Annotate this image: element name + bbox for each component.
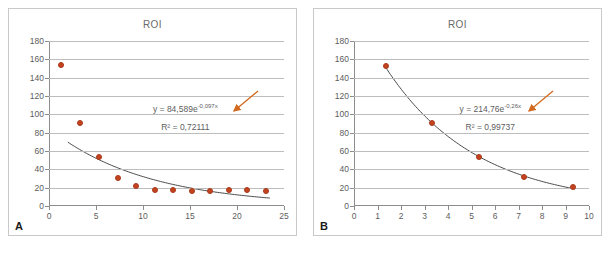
- chart-panel-b: ROI 020406080100120140160180012345678910…: [313, 8, 602, 236]
- y-tick-mark: [350, 169, 354, 170]
- gridline: [354, 78, 589, 79]
- chart-title-b: ROI: [314, 19, 601, 30]
- y-tick-mark: [350, 188, 354, 189]
- x-tick-label: 10: [138, 211, 147, 221]
- x-tick-mark: [542, 206, 543, 210]
- x-tick-mark: [425, 206, 426, 210]
- x-tick-label: 10: [584, 211, 593, 221]
- y-tick-mark: [45, 133, 49, 134]
- y-tick-label: 100: [30, 109, 44, 119]
- y-tick-mark: [350, 133, 354, 134]
- y-tick-mark: [350, 78, 354, 79]
- y-tick-mark: [350, 151, 354, 152]
- gridline: [49, 41, 284, 42]
- x-tick-mark: [96, 206, 97, 210]
- y-tick-mark: [45, 114, 49, 115]
- x-tick-mark: [401, 206, 402, 210]
- x-tick-label: 2: [399, 211, 404, 221]
- y-tick-label: 100: [335, 109, 349, 119]
- data-point: [115, 175, 121, 181]
- data-point: [189, 188, 195, 194]
- panel-letter-b: B: [320, 220, 328, 232]
- y-tick-label: 20: [35, 183, 44, 193]
- r-squared-label-b: R² = 0,99737: [466, 122, 515, 132]
- y-tick-mark: [45, 78, 49, 79]
- equation-prefix-a: y = 84,589e: [153, 104, 198, 114]
- x-tick-mark: [495, 206, 496, 210]
- y-tick-mark: [45, 59, 49, 60]
- x-tick-label: 15: [185, 211, 194, 221]
- y-tick-mark: [45, 41, 49, 42]
- y-tick-label: 120: [30, 91, 44, 101]
- data-point: [77, 120, 83, 126]
- x-tick-label: 5: [94, 211, 99, 221]
- y-tick-label: 120: [335, 91, 349, 101]
- x-tick-label: 20: [232, 211, 241, 221]
- x-tick-label: 8: [540, 211, 545, 221]
- data-point: [383, 63, 389, 69]
- y-tick-mark: [45, 96, 49, 97]
- x-tick-label: 7: [516, 211, 521, 221]
- data-point: [570, 184, 576, 190]
- x-tick-mark: [589, 206, 590, 210]
- gridline: [354, 169, 589, 170]
- x-tick-mark: [448, 206, 449, 210]
- x-tick-mark: [566, 206, 567, 210]
- x-tick-mark: [378, 206, 379, 210]
- y-tick-label: 180: [30, 36, 44, 46]
- gridline: [354, 59, 589, 60]
- gridline: [49, 169, 284, 170]
- equation-arrow-a: [224, 87, 264, 119]
- y-tick-mark: [350, 41, 354, 42]
- y-tick-label: 80: [35, 128, 44, 138]
- x-tick-mark: [284, 206, 285, 210]
- gridline: [49, 133, 284, 134]
- y-tick-mark: [45, 188, 49, 189]
- y-tick-label: 40: [35, 164, 44, 174]
- x-tick-label: 0: [352, 211, 357, 221]
- y-tick-label: 140: [335, 73, 349, 83]
- y-tick-label: 140: [30, 73, 44, 83]
- equation-exponent-a: -0,097x: [198, 103, 218, 109]
- y-tick-mark: [45, 169, 49, 170]
- data-point: [476, 154, 482, 160]
- x-tick-label: 6: [493, 211, 498, 221]
- x-tick-mark: [354, 206, 355, 210]
- y-tick-label: 0: [39, 201, 44, 211]
- x-tick-label: 25: [279, 211, 288, 221]
- x-tick-mark: [190, 206, 191, 210]
- equation-label-a: y = 84,589e-0,097x: [153, 103, 218, 114]
- y-tick-mark: [350, 96, 354, 97]
- gridline: [49, 78, 284, 79]
- y-tick-label: 160: [335, 54, 349, 64]
- panel-letter-a: A: [15, 220, 23, 232]
- y-tick-label: 60: [35, 146, 44, 156]
- x-tick-mark: [519, 206, 520, 210]
- x-tick-label: 5: [469, 211, 474, 221]
- x-tick-label: 1: [375, 211, 380, 221]
- y-tick-mark: [350, 59, 354, 60]
- x-tick-label: 0: [47, 211, 52, 221]
- data-point: [207, 188, 213, 194]
- gridline: [354, 41, 589, 42]
- data-point: [244, 187, 250, 193]
- y-tick-label: 0: [344, 201, 349, 211]
- chart-panel-a: ROI 0204060801001201401601800510152025 y…: [8, 8, 297, 236]
- equation-prefix-b: y = 214,76e: [460, 104, 505, 114]
- data-point: [226, 187, 232, 193]
- x-tick-label: 4: [446, 211, 451, 221]
- gridline: [49, 151, 284, 152]
- x-tick-label: 9: [563, 211, 568, 221]
- y-tick-label: 180: [335, 36, 349, 46]
- chart-title-a: ROI: [9, 19, 296, 30]
- y-tick-label: 160: [30, 54, 44, 64]
- y-tick-label: 80: [340, 128, 349, 138]
- x-tick-label: 3: [422, 211, 427, 221]
- y-tick-label: 60: [340, 146, 349, 156]
- equation-label-b: y = 214,76e-0,26x: [460, 103, 521, 114]
- y-tick-mark: [45, 151, 49, 152]
- x-tick-mark: [143, 206, 144, 210]
- data-point: [96, 154, 102, 160]
- gridline: [49, 59, 284, 60]
- x-tick-mark: [237, 206, 238, 210]
